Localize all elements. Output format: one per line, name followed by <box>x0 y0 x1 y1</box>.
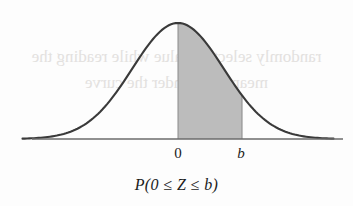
axis-tick-label-b: b <box>221 146 261 161</box>
axis-tick-label-zero: 0 <box>158 146 198 161</box>
normal-curve-figure: randomly selects a value while reading t… <box>0 0 353 206</box>
figure-caption: P(0 ≤ Z ≤ b) <box>0 176 353 194</box>
